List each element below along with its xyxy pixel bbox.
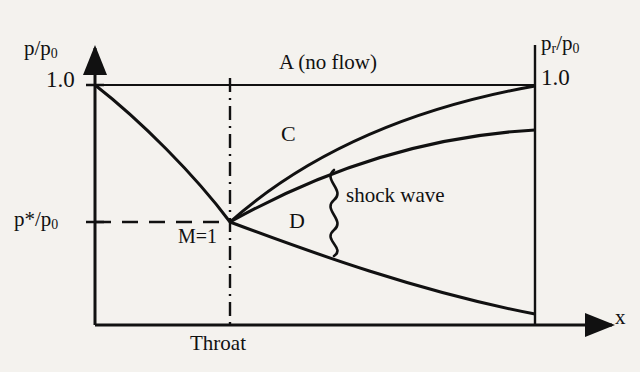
curve-c-label: C	[281, 123, 296, 145]
mach-one-label: M=1	[178, 226, 217, 246]
curve-d-path	[230, 222, 535, 314]
curve-a-label: A (no flow)	[279, 52, 377, 73]
x-axis-label: x	[615, 307, 626, 328]
right-axis-label: pr/p0	[541, 33, 579, 56]
curve-d-label: D	[289, 210, 305, 232]
y-axis-top-value: 1.0	[46, 68, 75, 91]
converging-branch-curve	[95, 85, 230, 222]
shock-wave-squiggle-icon	[331, 170, 338, 256]
right-axis-top-value: 1.0	[541, 66, 570, 89]
curve-c-lower-path	[230, 130, 535, 222]
nozzle-pressure-diagram: p/p0 1.0 pr/p0 1.0 p*/p0 M=1 Throat A (n…	[0, 0, 640, 372]
shock-wave-label: shock wave	[346, 185, 445, 206]
y-axis-label: p/p0	[24, 38, 58, 61]
throat-label: Throat	[190, 333, 246, 354]
p-star-axis-label: p*/p0	[14, 209, 58, 232]
